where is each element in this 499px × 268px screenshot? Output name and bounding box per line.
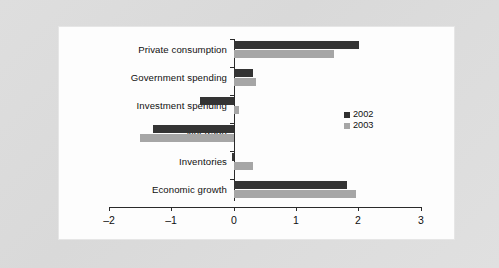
bar-2003-inventories bbox=[234, 162, 253, 170]
value-axis-line bbox=[109, 207, 421, 208]
bar-2003-net-trade bbox=[140, 134, 234, 142]
legend-item-2003: 2003 bbox=[344, 120, 373, 131]
bar-2003-government-spending bbox=[234, 78, 256, 86]
bar-2003-private-consumption bbox=[234, 50, 334, 58]
value-axis-tick bbox=[171, 207, 172, 211]
bar-2002-economic-growth bbox=[234, 181, 347, 189]
legend-label: 2002 bbox=[353, 109, 373, 120]
value-axis-tick-label: 0 bbox=[222, 214, 246, 226]
bar-2003-investment-spending bbox=[234, 106, 239, 114]
bar-2002-inventories bbox=[232, 153, 234, 161]
value-axis-tick-label: 2 bbox=[346, 214, 370, 226]
chart-legend: 2002 2003 bbox=[344, 109, 373, 131]
bars-container bbox=[234, 39, 424, 197]
value-axis-tick bbox=[234, 207, 235, 211]
value-axis-tick-label: –1 bbox=[159, 214, 183, 226]
bar-2002-net-trade bbox=[153, 125, 234, 133]
category-label: Inventories bbox=[179, 156, 227, 167]
bar-2003-economic-growth bbox=[234, 190, 356, 198]
value-axis-tick bbox=[421, 207, 422, 211]
category-label: Economic growth bbox=[152, 184, 227, 195]
legend-swatch-icon bbox=[344, 123, 350, 129]
chart-panel: Private consumption Government spending … bbox=[58, 26, 455, 240]
value-axis-tick-label: 1 bbox=[284, 214, 308, 226]
bar-2002-government-spending bbox=[234, 69, 253, 77]
bar-2002-investment-spending bbox=[200, 97, 234, 105]
legend-item-2002: 2002 bbox=[344, 109, 373, 120]
value-axis-tick bbox=[296, 207, 297, 211]
bar-2002-private-consumption bbox=[234, 41, 359, 49]
legend-swatch-icon bbox=[344, 112, 350, 118]
value-axis-tick bbox=[358, 207, 359, 211]
legend-label: 2003 bbox=[353, 120, 373, 131]
category-label: Private consumption bbox=[138, 44, 227, 55]
value-axis-tick-label: –2 bbox=[97, 214, 121, 226]
category-label: Government spending bbox=[131, 72, 227, 83]
value-axis-tick-label: 3 bbox=[409, 214, 433, 226]
chart-plot-area: Private consumption Government spending … bbox=[59, 27, 456, 241]
value-axis-tick bbox=[109, 207, 110, 211]
